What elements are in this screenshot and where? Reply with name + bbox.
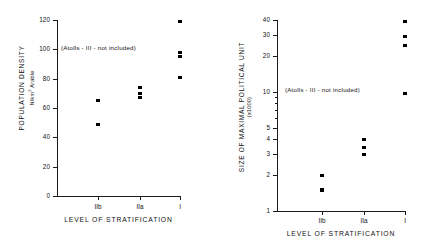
right-data-point bbox=[362, 153, 365, 156]
right-x-tick-label: IIb bbox=[307, 218, 337, 224]
left-y-tick bbox=[53, 196, 57, 197]
left-y-tick-label: 100 bbox=[27, 46, 50, 52]
left-y-tick-label: 40 bbox=[27, 134, 50, 140]
left-data-point bbox=[178, 76, 181, 79]
right-x-tick bbox=[364, 211, 365, 215]
right-y-minor-tick bbox=[275, 97, 278, 98]
right-data-point bbox=[320, 174, 323, 177]
left-data-point bbox=[96, 123, 99, 126]
right-y-tick bbox=[273, 35, 277, 36]
right-y-tick-label: 10 bbox=[249, 89, 270, 95]
left-data-point bbox=[178, 51, 181, 54]
left-y-tick-label: 0 bbox=[27, 193, 50, 199]
left-y-axis-line bbox=[57, 20, 58, 196]
right-y-tick-label: 4 bbox=[249, 136, 270, 142]
right-y-tick-label: 3 bbox=[249, 151, 270, 157]
right-y-tick-label: 30 bbox=[249, 32, 270, 38]
right-y-tick bbox=[273, 139, 277, 140]
right-data-point bbox=[362, 146, 365, 149]
figure-two-panel-scatter: POPULATION DENSITY N/km2 Arable (Atolls … bbox=[0, 0, 432, 248]
left-data-point bbox=[138, 86, 141, 89]
right-y-tick bbox=[273, 128, 277, 129]
left-y-tick-label: 20 bbox=[27, 164, 50, 170]
right-x-axis-line bbox=[277, 211, 405, 212]
right-y-minor-tick bbox=[275, 110, 278, 111]
right-data-point bbox=[403, 44, 406, 47]
left-y-tick-label: 60 bbox=[27, 105, 50, 111]
panel-maximal-political-unit: SIZE OF MAXIMAL POLITICAL UNIT (x1000) (… bbox=[216, 0, 432, 248]
left-y-tick-label: 80 bbox=[27, 76, 50, 82]
left-y-tick bbox=[53, 20, 57, 21]
right-y-minor-tick bbox=[275, 118, 278, 119]
right-data-point bbox=[403, 92, 406, 95]
panel-population-density: POPULATION DENSITY N/km2 Arable (Atolls … bbox=[0, 0, 216, 248]
left-y-tick bbox=[53, 137, 57, 138]
left-y-tick bbox=[53, 167, 57, 168]
right-y-tick-label: 40 bbox=[249, 17, 270, 23]
left-plot-area: 020406080100120IIbIIaI bbox=[0, 0, 216, 248]
left-x-tick-label: IIa bbox=[125, 204, 155, 210]
left-data-point bbox=[96, 99, 99, 102]
left-y-tick bbox=[53, 79, 57, 80]
left-x-tick bbox=[140, 196, 141, 200]
right-y-tick-label: 1 bbox=[249, 208, 270, 214]
right-y-minor-tick bbox=[275, 103, 278, 104]
right-x-tick-label: IIa bbox=[349, 218, 379, 224]
left-x-tick bbox=[180, 196, 181, 200]
left-data-point bbox=[178, 55, 181, 58]
right-x-tick-label: I bbox=[390, 218, 420, 224]
left-data-point bbox=[138, 92, 141, 95]
left-x-tick bbox=[98, 196, 99, 200]
left-y-tick bbox=[53, 49, 57, 50]
right-y-tick bbox=[273, 56, 277, 57]
left-x-axis-line bbox=[57, 196, 180, 197]
right-y-tick-label: 5 bbox=[249, 125, 270, 131]
right-data-point bbox=[362, 138, 365, 141]
right-y-tick-label: 2 bbox=[249, 172, 270, 178]
right-x-axis-label: LEVEL OF STRATIFICATION bbox=[261, 230, 421, 237]
right-data-point bbox=[320, 188, 323, 191]
left-y-tick bbox=[53, 108, 57, 109]
right-data-point bbox=[403, 35, 406, 38]
left-y-tick-label: 120 bbox=[27, 17, 50, 23]
left-x-axis-label: LEVEL OF STRATIFICATION bbox=[41, 216, 196, 223]
right-x-tick bbox=[405, 211, 406, 215]
left-x-tick-label: I bbox=[165, 204, 195, 210]
left-data-point bbox=[178, 20, 181, 23]
right-y-axis-line bbox=[277, 20, 278, 211]
left-data-point bbox=[138, 96, 141, 99]
right-y-tick-label: 20 bbox=[249, 53, 270, 59]
right-y-tick bbox=[273, 20, 277, 21]
right-data-point bbox=[403, 20, 406, 23]
right-y-tick bbox=[273, 154, 277, 155]
right-y-tick bbox=[273, 211, 277, 212]
left-x-tick-label: IIb bbox=[83, 204, 113, 210]
right-x-tick bbox=[322, 211, 323, 215]
right-y-tick bbox=[273, 175, 277, 176]
right-plot-area: 1234510203040IIbIIaI bbox=[216, 0, 432, 248]
right-y-tick bbox=[273, 92, 277, 93]
